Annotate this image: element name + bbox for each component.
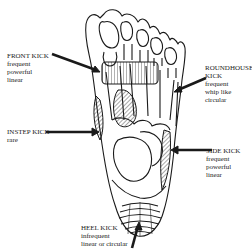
roundhouse-kick-desc-3: circular — [205, 96, 252, 104]
roundhouse-kick-title-2: KICK — [205, 72, 252, 80]
side-kick-desc-2: powerful — [206, 163, 240, 171]
instep-kick-title: INSTEP KICK — [7, 128, 49, 136]
front-kick-desc-3: linear — [7, 76, 49, 84]
foot-kick-diagram: FRONT KICK frequent powerful linear ROUN… — [0, 0, 252, 250]
roundhouse-kick-label: ROUNDHOUSE KICK frequent whip like circu… — [205, 64, 252, 104]
side-kick-title: SIDE KICK — [206, 147, 240, 155]
instep-kick-desc-1: rare — [7, 136, 49, 144]
front-kick-desc-2: powerful — [7, 68, 49, 76]
front-kick-zone — [102, 62, 158, 84]
instep-kick-label: INSTEP KICK rare — [7, 128, 49, 144]
heel-kick-desc-1: infrequent — [81, 232, 128, 240]
roundhouse-kick-title-1: ROUNDHOUSE — [205, 64, 252, 72]
side-kick-label: SIDE KICK frequent powerful linear — [206, 147, 240, 179]
heel-kick-desc-2: linear or circular — [81, 240, 128, 248]
side-kick-desc-3: linear — [206, 171, 240, 179]
front-kick-title: FRONT KICK — [7, 52, 49, 60]
front-kick-label: FRONT KICK frequent powerful linear — [7, 52, 49, 84]
side-kick-desc-1: frequent — [206, 155, 240, 163]
heel-kick-label: HEEL KICK infrequent linear or circular — [81, 224, 128, 248]
heel-kick-title: HEEL KICK — [81, 224, 128, 232]
roundhouse-kick-desc-2: whip like — [205, 88, 252, 96]
front-kick-desc-1: frequent — [7, 60, 49, 68]
roundhouse-kick-desc-1: frequent — [205, 80, 252, 88]
side-kick-zone — [161, 130, 171, 190]
foot-illustration — [0, 0, 252, 250]
